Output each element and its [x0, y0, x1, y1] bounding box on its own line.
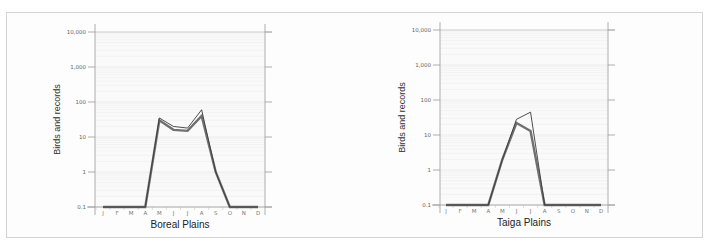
x-tick-label: O	[571, 208, 576, 214]
x-tick-label: J	[186, 210, 189, 217]
x-tick-label: N	[585, 208, 589, 214]
y-tick-label: 1	[428, 167, 432, 173]
x-tick-label: J	[101, 210, 104, 217]
y-axis-title: Birds and records	[52, 84, 62, 155]
x-tick-label: A	[543, 208, 547, 214]
x-tick-label: J	[515, 208, 518, 215]
x-tick-label: J	[172, 210, 175, 217]
x-tick-label: S	[557, 208, 561, 214]
charts-canvas: 0.11101001,00010,000JFMAMJJASONDBirds an…	[0, 0, 709, 245]
x-tick-label: N	[242, 210, 246, 216]
x-tick-label: J	[529, 208, 532, 215]
chart-boreal-plains: 0.11101001,00010,000JFMAMJJASONDBirds an…	[52, 24, 272, 230]
plot-area	[95, 32, 265, 207]
x-tick-label: F	[116, 210, 119, 216]
x-tick-label: J	[444, 208, 447, 215]
y-tick-label: 100	[76, 99, 87, 105]
x-tick-label: M	[472, 208, 477, 214]
x-tick-label: M	[500, 208, 505, 214]
x-tick-label: A	[200, 210, 204, 216]
y-tick-label: 100	[421, 97, 432, 103]
y-axis-title: Birds and records	[397, 82, 407, 153]
y-tick-label: 10	[424, 132, 431, 138]
x-tick-label: F	[459, 208, 462, 214]
y-tick-label: 10,000	[67, 29, 87, 35]
x-tick-label: A	[143, 210, 147, 216]
x-axis-title: Boreal Plains	[151, 219, 210, 230]
plot-area	[440, 30, 608, 205]
x-tick-label: A	[486, 208, 490, 214]
x-tick-label: M	[157, 210, 162, 216]
y-tick-label: 1,000	[70, 64, 86, 70]
y-tick-label: 10	[79, 134, 86, 140]
x-tick-label: M	[129, 210, 134, 216]
x-tick-label: S	[214, 210, 218, 216]
y-tick-label: 1,000	[415, 62, 431, 68]
chart-taiga-plains: 0.11101001,00010,000JFMAMJJASONDBirds an…	[397, 22, 615, 228]
y-tick-label: 0.1	[422, 202, 431, 208]
x-tick-label: D	[256, 210, 260, 216]
y-tick-label: 1	[83, 169, 87, 175]
x-tick-label: D	[599, 208, 603, 214]
x-tick-label: O	[228, 210, 233, 216]
y-tick-label: 10,000	[412, 27, 432, 33]
y-tick-label: 0.1	[77, 204, 86, 210]
x-axis-title: Taiga Plains	[497, 217, 551, 228]
